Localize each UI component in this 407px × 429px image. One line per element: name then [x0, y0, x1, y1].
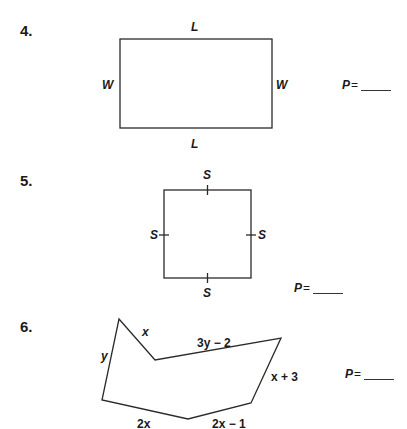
side-label-bottom-left: 2x	[137, 418, 150, 429]
problem-number: 6.	[20, 318, 33, 335]
side-label-bottom-right: 2x − 1	[212, 418, 246, 429]
perimeter-answer: P =	[294, 282, 343, 294]
side-label-right: W	[276, 79, 287, 91]
side-label-upper-left: x	[142, 326, 149, 338]
side-label-left: S	[150, 229, 158, 241]
side-label-right: x + 3	[271, 371, 298, 383]
square-figure	[159, 185, 256, 283]
perimeter-symbol: P	[345, 368, 353, 380]
perimeter-answer: P =	[345, 368, 394, 380]
side-label-top: L	[191, 21, 198, 33]
equals-sign: =	[354, 368, 361, 380]
answer-blank[interactable]	[313, 283, 343, 294]
side-label-top: S	[203, 169, 211, 181]
perimeter-answer: P =	[342, 79, 391, 91]
hexagon-figure	[102, 319, 281, 419]
figures-canvas	[0, 0, 407, 429]
answer-blank[interactable]	[361, 80, 391, 91]
answer-blank[interactable]	[364, 369, 394, 380]
side-label-left: y	[101, 350, 108, 362]
problem-number: 5.	[20, 172, 33, 189]
equals-sign: =	[303, 282, 310, 294]
perimeter-symbol: P	[342, 79, 350, 91]
rectangle-figure	[120, 39, 272, 128]
equals-sign: =	[351, 79, 358, 91]
problem-number: 4.	[20, 22, 33, 39]
perimeter-symbol: P	[294, 282, 302, 294]
side-label-bottom: S	[203, 287, 211, 299]
side-label-left: W	[102, 79, 113, 91]
side-label-bottom: L	[191, 138, 198, 150]
side-label-top: 3y − 2	[197, 337, 231, 349]
side-label-right: S	[258, 229, 266, 241]
